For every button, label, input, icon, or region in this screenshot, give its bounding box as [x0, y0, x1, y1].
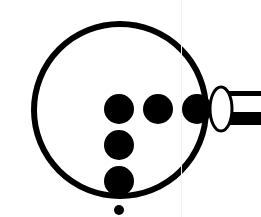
braille-dot-5: [104, 166, 134, 196]
braille-dot-4: [104, 130, 134, 160]
magnifier-braille-illustration: [0, 0, 261, 217]
scan-artifact-line: [181, 0, 182, 217]
braille-dot-1: [104, 94, 134, 124]
braille-dot-6: [114, 205, 124, 215]
magnifying-glass-icon: [0, 0, 261, 217]
braille-dot-3: [182, 94, 212, 124]
braille-dot-2: [143, 94, 173, 124]
handle-collar-icon: [210, 87, 232, 131]
